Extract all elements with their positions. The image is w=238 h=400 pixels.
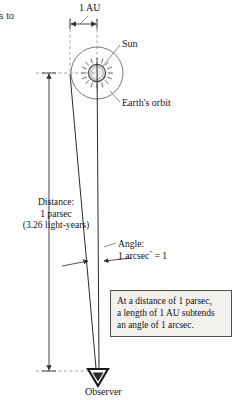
observer-icon bbox=[88, 369, 108, 386]
callout-line3: an angle of 1 arcsec. bbox=[117, 320, 226, 332]
label-angle: Angle: 1 arcsec" = 1 bbox=[118, 238, 234, 261]
callout-box: At a distance of 1 parsec, a length of 1… bbox=[110, 290, 232, 337]
label-observer: Observer bbox=[85, 386, 122, 398]
au-dimension-arrow bbox=[70, 16, 97, 29]
label-one-au: 1 AU bbox=[79, 2, 100, 14]
earth-orbit-leader-line bbox=[110, 91, 120, 102]
label-angle-value: 1 arcsec" = 1 bbox=[118, 250, 234, 262]
angle-leader-line bbox=[104, 243, 116, 247]
label-angle-line1: Angle: bbox=[118, 238, 234, 250]
label-sun: Sun bbox=[122, 38, 138, 50]
label-distance: Distance: 1 parsec (3.26 light-years) bbox=[2, 196, 110, 231]
label-distance-line1: Distance: bbox=[2, 196, 110, 208]
label-distance-line2: 1 parsec bbox=[2, 208, 110, 220]
callout-line2: a length of 1 AU subtends bbox=[117, 308, 226, 320]
label-earths-orbit: Earth's orbit bbox=[122, 97, 171, 109]
margin-note: ed sec is to the . bbox=[0, 10, 24, 35]
label-angle-value-suffix: = 1 bbox=[152, 250, 167, 261]
parsec-diagram: ed sec is to the . 1 AU Sun Earth's orbi… bbox=[0, 0, 238, 400]
label-angle-value-prefix: 1 arcsec bbox=[118, 250, 149, 261]
label-distance-line3: (3.26 light-years) bbox=[2, 219, 110, 231]
callout-line1: At a distance of 1 parsec, bbox=[117, 296, 226, 308]
